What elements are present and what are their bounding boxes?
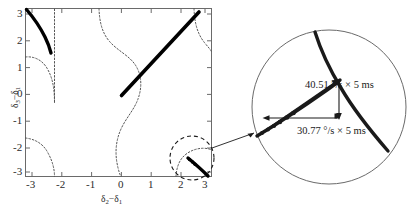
horizontal-increment-unit: °/s (323, 125, 334, 136)
x-tick-label: 3 (202, 179, 208, 190)
y-axis-label-delta3: δ (10, 104, 20, 108)
vertical-increment-step-unit: ms (362, 79, 374, 90)
vertical-increment-value: 40.51 (305, 79, 329, 90)
x-tick-label: -2 (56, 179, 65, 190)
magnified-circle (252, 30, 406, 184)
y-axis-label-delta1-sub: 1 (14, 87, 21, 90)
y-axis-label-delta3-sub: 3 (14, 100, 21, 103)
y-tick-label: 3 (17, 8, 23, 19)
vertical-increment-label: 40.51 °/s × 5 ms (305, 80, 374, 91)
y-axis-label-minus: − (10, 95, 20, 100)
horizontal-increment-step: 5 (346, 125, 351, 136)
horizontal-increment-value: 30.77 (297, 125, 321, 136)
vertical-increment-times: × (345, 79, 351, 90)
y-tick-label: -1 (13, 115, 22, 126)
y-axis-label-delta1: δ (10, 90, 20, 94)
x-tick-label: -3 (26, 179, 35, 190)
x-tick-label: 2 (178, 179, 184, 190)
vertical-increment-step: 5 (354, 79, 359, 90)
callout-arrow (212, 133, 254, 148)
figure-container: -3 -2 -1 0 1 2 3 3 2 1 0 -1 -2 -3 δ2−δ1 … (0, 0, 415, 214)
y-axis-label: δ3−δ1 (11, 87, 22, 108)
x-tick-label: 0 (118, 179, 124, 190)
y-tick-label: 1 (17, 62, 23, 73)
plot-frame (26, 9, 212, 177)
y-tick-label: 2 (17, 35, 23, 46)
x-tick-label: 1 (148, 179, 154, 190)
horizontal-increment-label: 30.77 °/s × 5 ms (297, 126, 366, 137)
x-axis-label-delta1-sub: 1 (119, 198, 122, 205)
vertical-increment-unit: °/s (331, 79, 342, 90)
y-tick-label: -2 (13, 142, 22, 153)
x-tick-label: -1 (86, 179, 95, 190)
horizontal-increment-times: × (337, 125, 343, 136)
horizontal-increment-step-unit: ms (354, 125, 366, 136)
x-axis-label: δ2−δ1 (101, 195, 122, 206)
y-tick-label: -3 (13, 166, 22, 177)
